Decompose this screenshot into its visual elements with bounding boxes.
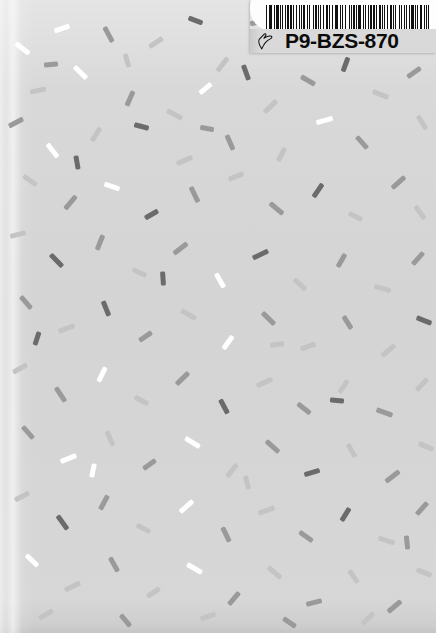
confetti-fleck: [175, 371, 191, 386]
code128-barcode: [266, 5, 432, 29]
confetti-fleck: [123, 53, 132, 68]
confetti-fleck: [252, 249, 269, 261]
confetti-fleck: [306, 598, 323, 607]
confetti-fleck: [55, 514, 69, 531]
confetti-fleck: [8, 117, 24, 129]
confetti-fleck: [172, 241, 188, 255]
confetti-fleck: [21, 425, 35, 440]
confetti-fleck: [341, 315, 353, 330]
confetti-fleck: [418, 441, 435, 452]
confetti-fleck: [243, 475, 251, 490]
confetti-fleck: [415, 377, 430, 392]
confetti-fleck: [96, 366, 108, 383]
confetti-fleck: [311, 182, 324, 198]
confetti-fleck: [376, 407, 394, 418]
confetti-fleck: [337, 379, 350, 394]
confetti-fleck: [265, 439, 281, 454]
confetti-fleck-layer: [0, 0, 436, 633]
confetti-fleck: [189, 186, 201, 203]
confetti-fleck: [241, 64, 251, 81]
confetti-fleck: [258, 505, 276, 516]
confetti-fleck: [136, 523, 152, 534]
confetti-fleck: [108, 556, 120, 572]
confetti-fleck: [58, 323, 76, 334]
confetti-fleck: [148, 36, 164, 49]
confetti-fleck: [292, 277, 307, 291]
confetti-fleck: [355, 135, 369, 150]
confetti-fleck: [19, 295, 33, 310]
confetti-fleck: [214, 272, 226, 288]
barcode-label[interactable]: P9-BZS-870: [250, 0, 436, 53]
confetti-fleck: [144, 209, 159, 221]
confetti-fleck: [316, 116, 334, 125]
confetti-fleck: [104, 182, 121, 192]
confetti-fleck: [218, 398, 230, 414]
confetti-fleck: [176, 155, 194, 166]
confetti-fleck: [384, 469, 400, 483]
confetti-fleck: [380, 343, 396, 358]
confetti-fleck: [347, 569, 360, 584]
confetti-fleck: [378, 535, 396, 545]
pointing-hand-icon: [257, 32, 277, 50]
confetti-fleck: [63, 194, 78, 210]
confetti-fleck: [304, 468, 321, 477]
confetti-fleck: [339, 507, 351, 522]
confetti-fleck: [268, 201, 284, 216]
confetti-fleck: [336, 253, 348, 268]
confetti-fleck: [49, 253, 64, 269]
confetti-fleck: [30, 86, 47, 94]
confetti-fleck: [54, 386, 68, 403]
confetti-fleck: [101, 300, 112, 317]
confetti-fleck: [12, 362, 28, 374]
confetti-fleck: [404, 535, 410, 549]
confetti-fleck: [184, 436, 201, 449]
confetti-fleck: [54, 23, 71, 33]
confetti-fleck: [276, 147, 287, 163]
confetti-fleck: [256, 377, 274, 388]
label-code-text: P9-BZS-870: [285, 30, 399, 51]
confetti-fleck: [44, 61, 58, 67]
confetti-fleck: [386, 599, 402, 614]
confetti-fleck: [142, 458, 157, 471]
confetti-fleck: [132, 267, 148, 278]
confetti-fleck: [200, 611, 217, 621]
confetti-fleck: [146, 586, 161, 599]
confetti-fleck: [220, 526, 232, 543]
confetti-fleck: [64, 581, 81, 593]
confetti-fleck: [413, 205, 426, 221]
confetti-fleck: [270, 341, 285, 348]
confetti-fleck: [298, 530, 314, 543]
confetti-fleck: [224, 134, 235, 151]
confetti-fleck: [179, 499, 195, 514]
confetti-fleck: [98, 494, 110, 510]
confetti-fleck: [60, 453, 78, 464]
confetti-fleck: [261, 311, 277, 326]
confetti-fleck: [45, 142, 59, 158]
confetti-fleck: [138, 330, 153, 343]
confetti-fleck: [32, 331, 41, 346]
confetti-fleck: [25, 553, 40, 568]
confetti-fleck: [73, 155, 80, 170]
confetti-fleck: [411, 251, 425, 266]
confetti-fleck: [102, 26, 114, 43]
confetti-fleck: [221, 335, 234, 351]
confetti-fleck: [361, 611, 376, 626]
confetti-fleck: [73, 65, 89, 80]
confetti-fleck: [415, 501, 429, 516]
confetti-fleck: [263, 99, 279, 114]
confetti-fleck: [372, 89, 390, 100]
confetti-fleck: [89, 463, 97, 478]
confetti-fleck: [180, 308, 197, 321]
confetti-fleck: [374, 284, 392, 293]
confetti-fleck: [296, 402, 312, 416]
confetti-fleck: [119, 613, 132, 628]
confetti-fleck: [300, 74, 316, 86]
confetti-fleck: [416, 567, 433, 578]
confetti-fleck: [22, 174, 38, 187]
confetti-fleck: [341, 57, 351, 73]
confetti-fleck: [90, 126, 103, 142]
label-code-row: P9-BZS-870: [250, 28, 436, 53]
confetti-fleck: [10, 230, 27, 239]
confetti-fleck: [95, 234, 106, 251]
confetti-fleck: [38, 608, 54, 620]
